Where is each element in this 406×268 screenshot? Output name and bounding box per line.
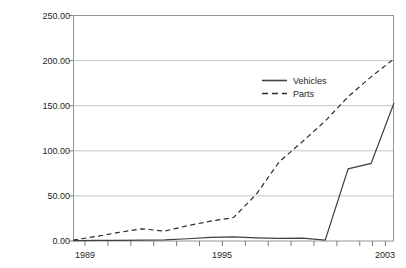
legend-label-vehicles: Vehicles xyxy=(293,76,327,86)
x-axis-ticklabels: 1989 1995 2003 xyxy=(0,0,406,268)
chart-figure: Value in constant 2000 US$ million 250.0… xyxy=(0,0,406,268)
legend-label-parts: Parts xyxy=(293,89,314,99)
x-tick-1989: 1989 xyxy=(55,250,115,260)
x-tick-1995: 1995 xyxy=(192,250,252,260)
x-tick-2003: 2003 xyxy=(355,250,406,260)
